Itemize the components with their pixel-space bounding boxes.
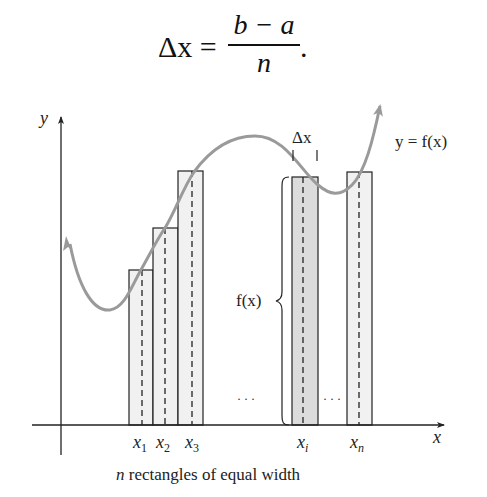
curve-left-arrowhead xyxy=(63,236,72,251)
curve-f xyxy=(70,106,380,310)
x-axis-label: x xyxy=(433,427,441,448)
rect-2 xyxy=(153,228,178,425)
label-x2: x2 xyxy=(156,432,170,456)
label-xi: xi xyxy=(297,432,308,456)
curve-label: y = f(x) xyxy=(395,132,447,152)
fx-brace xyxy=(276,177,289,425)
label-x3: x3 xyxy=(185,432,199,456)
rect-3 xyxy=(178,171,203,425)
label-xn: xn xyxy=(350,432,364,456)
riemann-sum-figure xyxy=(0,0,487,497)
y-axis-label: y xyxy=(40,108,48,129)
ellipsis-left: · · · xyxy=(237,392,255,407)
caption-variable: n xyxy=(116,465,125,484)
label-x1: x1 xyxy=(133,432,147,456)
fx-label: f(x) xyxy=(236,291,261,311)
delta-x-label: Δx xyxy=(292,128,311,148)
ellipsis-right: · · · xyxy=(323,392,341,407)
rect-1 xyxy=(129,270,153,425)
caption-text: rectangles of equal width xyxy=(125,465,301,484)
rect-i xyxy=(292,177,318,425)
figure-caption: n rectangles of equal width xyxy=(116,465,300,485)
